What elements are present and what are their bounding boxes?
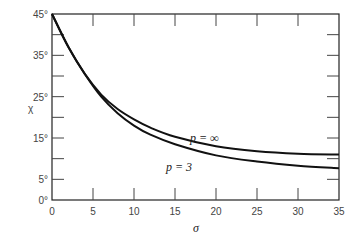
svg-text:0: 0	[49, 206, 55, 217]
svg-text:0°: 0°	[38, 195, 48, 206]
svg-text:25: 25	[251, 206, 263, 217]
svg-text:35: 35	[333, 206, 345, 217]
annotation-p-3: p = 3	[165, 160, 192, 174]
y-axis-label: χ	[28, 103, 34, 114]
svg-text:25°: 25°	[33, 92, 48, 103]
chart: 051015202530350°5°15°25°35°45° χ σ p = ∞…	[0, 0, 358, 243]
x-axis-label: σ	[193, 221, 200, 235]
svg-text:30: 30	[292, 206, 304, 217]
svg-text:15°: 15°	[33, 133, 48, 144]
svg-text:5: 5	[90, 206, 96, 217]
svg-text:5°: 5°	[38, 174, 48, 185]
annotation-p-inf: p = ∞	[189, 131, 219, 145]
axis-ticks: 051015202530350°5°15°25°35°45°	[33, 9, 345, 217]
curve-p = 3	[52, 14, 339, 168]
svg-text:45°: 45°	[33, 9, 48, 20]
svg-text:15: 15	[169, 206, 181, 217]
svg-text:35°: 35°	[33, 50, 48, 61]
curves	[52, 14, 339, 168]
svg-text:20: 20	[210, 206, 222, 217]
plot-frame	[52, 14, 339, 200]
svg-text:10: 10	[128, 206, 140, 217]
